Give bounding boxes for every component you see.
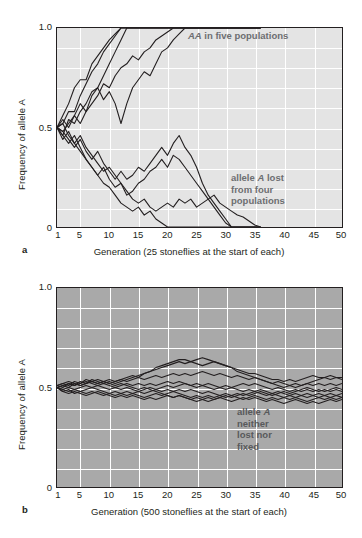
x-tick-label: 30 (221, 489, 232, 500)
panel-a-y-tick-1: 1.0 (18, 21, 52, 32)
x-tick-label: 50 (336, 489, 347, 500)
panel-a-trajectories (57, 28, 342, 227)
trajectory-line (57, 358, 342, 386)
x-tick-label: 10 (103, 489, 114, 500)
x-tick-label: 45 (308, 229, 319, 240)
panel-b-x-ticks: 15101520253035404550 (56, 489, 343, 503)
panel-b: Frequency of allele A 1.0 0.5 0 15101520… (0, 269, 362, 538)
panel-b-x-axis-caption: Generation (500 stoneflies at the start … (8, 506, 362, 517)
genetic-drift-figure: Frequency of allele A 1.0 0.5 0 15101520… (0, 0, 362, 538)
x-tick-label: 35 (250, 489, 261, 500)
panel-a-x-axis-caption: Generation (25 stoneflies at the start o… (8, 246, 362, 257)
x-tick-label: 30 (221, 229, 232, 240)
panel-b-plot-area (56, 287, 343, 488)
x-tick-label: 40 (279, 489, 290, 500)
x-tick-label: 5 (77, 489, 82, 500)
x-tick-label: 50 (336, 229, 347, 240)
trajectory-line (57, 28, 261, 128)
panel-a-x-ticks: 15101520253035404550 (56, 229, 343, 243)
x-tick-label: 45 (308, 489, 319, 500)
panel-b-y-tick-0: 0 (18, 482, 52, 493)
x-tick-label: 5 (77, 229, 82, 240)
annotation-aa-fixed: AA in five populations (188, 30, 288, 42)
panel-a-y-axis-label: Frequency of allele A (16, 99, 27, 190)
trajectory-line (57, 28, 261, 128)
x-tick-label: 35 (250, 229, 261, 240)
x-tick-label: 1 (55, 489, 60, 500)
x-tick-label: 20 (162, 489, 173, 500)
annotation-neither-lost-nor-fixed: allele Aneitherlost norfixed (237, 406, 272, 452)
panel-b-y-axis-label: Frequency of allele A (16, 359, 27, 450)
x-tick-label: 10 (103, 229, 114, 240)
panel-b-trajectories (57, 288, 342, 487)
panel-a-y-tick-0p5: 0.5 (18, 122, 52, 133)
panel-b-letter: b (22, 504, 28, 515)
panel-b-y-tick-0p5: 0.5 (18, 382, 52, 393)
trajectory-line (57, 362, 342, 388)
x-tick-label: 20 (162, 229, 173, 240)
panel-a-y-tick-0: 0 (18, 222, 52, 233)
panel-a-letter: a (22, 244, 27, 255)
x-tick-label: 40 (279, 229, 290, 240)
x-tick-label: 25 (191, 229, 202, 240)
x-tick-label: 1 (55, 229, 60, 240)
x-tick-label: 25 (191, 489, 202, 500)
annotation-allele-lost: allele A lostfrom fourpopulations (231, 172, 285, 207)
panel-b-y-tick-1: 1.0 (18, 281, 52, 292)
x-tick-label: 15 (133, 229, 144, 240)
panel-a: Frequency of allele A 1.0 0.5 0 15101520… (0, 0, 362, 269)
x-tick-label: 15 (133, 489, 144, 500)
trajectory-line (57, 28, 261, 128)
panel-a-plot-area (56, 27, 343, 228)
